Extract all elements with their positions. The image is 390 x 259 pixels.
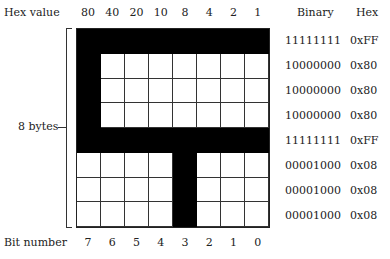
pixel-on (125, 29, 149, 54)
pixel-off (149, 103, 173, 128)
row-hex: 0x80 (350, 84, 390, 97)
hex-value-header: 20 (125, 6, 149, 19)
pixel-off (125, 103, 149, 128)
row-hex: 0xFF (350, 134, 390, 147)
row-binary: 11111111 (285, 34, 345, 47)
pixel-off (101, 54, 125, 79)
binary-column-header: Binary (297, 6, 334, 19)
pixel-on (221, 29, 245, 54)
pixel-on (245, 128, 269, 153)
pixel-off (245, 153, 269, 178)
pixel-on (173, 202, 197, 227)
pixel-off (77, 202, 101, 227)
row-binary: 10000000 (285, 109, 345, 122)
bit-number: 0 (246, 236, 270, 249)
pixel-off (149, 79, 173, 104)
pixel-off (221, 103, 245, 128)
bit-number: 1 (222, 236, 246, 249)
pixel-on (125, 128, 149, 153)
pixel-off (197, 178, 221, 203)
pixel-off (221, 178, 245, 203)
pixel-off (221, 54, 245, 79)
bytes-bracket-tick (58, 127, 66, 128)
pixel-off (149, 202, 173, 227)
pixel-on (101, 29, 125, 54)
pixel-on (149, 128, 173, 153)
bit-number: 6 (100, 236, 124, 249)
pixel-off (245, 79, 269, 104)
row-binary: 10000000 (285, 84, 345, 97)
pixel-on (197, 29, 221, 54)
pixel-off (197, 79, 221, 104)
row-hex: 0x08 (350, 184, 390, 197)
pixel-on (173, 178, 197, 203)
hex-value-header: 4 (197, 6, 221, 19)
row-hex: 0x80 (350, 59, 390, 72)
bit-number-label: Bit number (4, 236, 67, 249)
bit-number: 3 (173, 236, 197, 249)
pixel-off (245, 202, 269, 227)
hex-value-header: 2 (222, 6, 246, 19)
pixel-off (221, 202, 245, 227)
bytes-bracket (66, 28, 72, 228)
bitmap-grid (76, 28, 270, 228)
bit-number: 4 (149, 236, 173, 249)
pixel-off (125, 153, 149, 178)
pixel-off (245, 103, 269, 128)
pixel-on (173, 29, 197, 54)
pixel-off (197, 54, 221, 79)
pixel-off (125, 202, 149, 227)
pixel-off (101, 178, 125, 203)
hex-value-label: Hex value (4, 6, 60, 19)
pixel-off (101, 202, 125, 227)
pixel-off (197, 153, 221, 178)
bit-number: 7 (76, 236, 100, 249)
pixel-on (197, 128, 221, 153)
pixel-off (197, 202, 221, 227)
pixel-off (125, 178, 149, 203)
row-binary: 00001000 (285, 159, 345, 172)
row-hex: 0x08 (350, 159, 390, 172)
row-binary: 00001000 (285, 184, 345, 197)
hex-value-header: 8 (173, 6, 197, 19)
hex-value-header: 10 (149, 6, 173, 19)
pixel-off (173, 79, 197, 104)
pixel-off (149, 54, 173, 79)
pixel-off (101, 79, 125, 104)
pixel-on (149, 29, 173, 54)
hex-value-header: 80 (76, 6, 100, 19)
pixel-off (197, 103, 221, 128)
pixel-on (173, 128, 197, 153)
pixel-off (149, 153, 173, 178)
pixel-on (77, 128, 101, 153)
pixel-on (245, 29, 269, 54)
row-binary: 00001000 (285, 209, 345, 222)
row-hex: 0xFF (350, 34, 390, 47)
pixel-on (221, 128, 245, 153)
hex-column-header: Hex (356, 6, 378, 19)
pixel-on (77, 79, 101, 104)
pixel-off (101, 103, 125, 128)
pixel-on (101, 128, 125, 153)
row-binary: 11111111 (285, 134, 345, 147)
pixel-off (125, 54, 149, 79)
pixel-off (245, 54, 269, 79)
pixel-off (173, 103, 197, 128)
pixel-on (77, 54, 101, 79)
pixel-off (101, 153, 125, 178)
row-hex: 0x08 (350, 209, 390, 222)
pixel-on (173, 153, 197, 178)
row-binary: 10000000 (285, 59, 345, 72)
hex-value-header: 40 (100, 6, 124, 19)
hex-value-header: 1 (246, 6, 270, 19)
pixel-off (221, 153, 245, 178)
pixel-off (221, 79, 245, 104)
bit-number: 5 (125, 236, 149, 249)
row-hex: 0x80 (350, 109, 390, 122)
pixel-off (245, 178, 269, 203)
pixel-off (173, 54, 197, 79)
pixel-off (125, 79, 149, 104)
pixel-on (77, 29, 101, 54)
pixel-off (149, 178, 173, 203)
pixel-off (77, 153, 101, 178)
